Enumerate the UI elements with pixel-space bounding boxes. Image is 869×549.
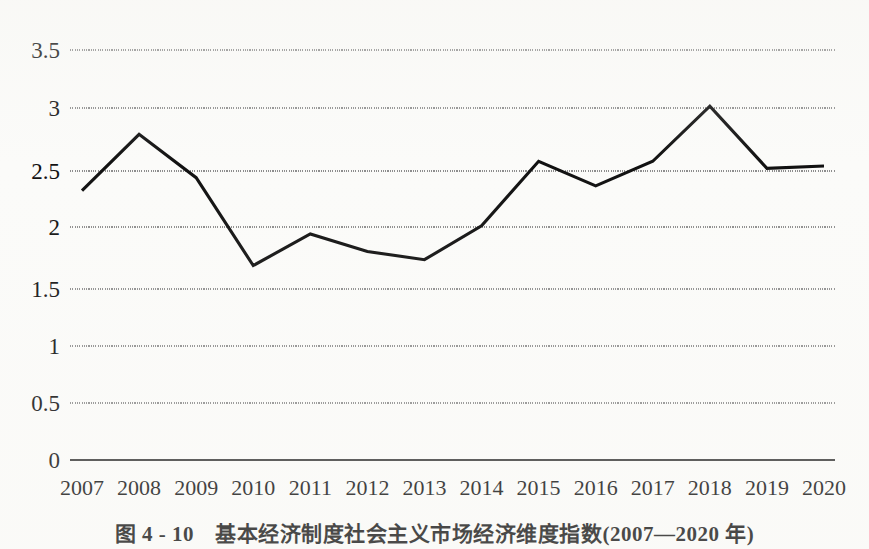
x-tick-label: 2015 [517, 475, 561, 500]
x-tick-label: 2018 [688, 475, 732, 500]
x-axis-tick-labels: 2007200820092010201120122013201420152016… [60, 475, 846, 500]
y-tick-label: 0 [49, 448, 61, 473]
line-chart: 3.5 3 2.5 2 1.5 1 0.5 0 2007200820092010… [0, 0, 869, 515]
figure-caption: 图 4 - 10 基本经济制度社会主义市场经济维度指数(2007—2020 年) [0, 515, 869, 549]
y-tick-label: 1 [49, 334, 61, 359]
y-tick-label: 2 [49, 215, 61, 240]
x-tick-label: 2010 [231, 475, 275, 500]
y-tick-label: 0.5 [31, 391, 60, 416]
x-tick-label: 2016 [574, 475, 618, 500]
x-tick-label: 2009 [174, 475, 218, 500]
x-tick-label: 2020 [802, 475, 846, 500]
x-tick-label: 2008 [117, 475, 161, 500]
x-tick-label: 2019 [745, 475, 789, 500]
y-tick-label: 3.5 [31, 38, 60, 63]
x-tick-label: 2012 [345, 475, 389, 500]
y-tick-label: 2.5 [31, 159, 60, 184]
y-axis-tick-labels: 3.5 3 2.5 2 1.5 1 0.5 0 [31, 38, 60, 473]
x-tick-label: 2013 [402, 475, 446, 500]
series-line-economic-index [82, 106, 824, 265]
x-tick-label: 2007 [60, 475, 104, 500]
y-tick-label: 3 [49, 96, 61, 121]
x-tick-label: 2014 [460, 475, 504, 500]
y-gridlines [70, 50, 835, 403]
figure-container: 3.5 3 2.5 2 1.5 1 0.5 0 2007200820092010… [0, 0, 869, 549]
y-tick-label: 1.5 [31, 277, 60, 302]
x-tick-label: 2011 [289, 475, 332, 500]
x-tick-label: 2017 [631, 475, 675, 500]
